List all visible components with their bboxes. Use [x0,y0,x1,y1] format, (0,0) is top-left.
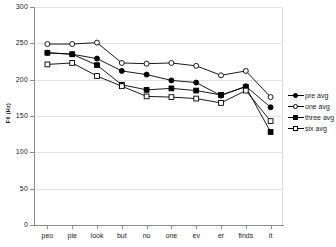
legend-label: pre avg [304,92,328,100]
data-point-marker [268,105,273,110]
data-point-marker [95,63,100,68]
data-point-marker [194,80,199,85]
data-point-marker [169,78,174,83]
series-one-avg [45,40,273,100]
series-line [47,63,270,121]
data-point-marker [95,74,100,79]
data-point-marker [194,88,199,93]
series-layer [0,0,336,247]
series-pre-avg [45,50,273,110]
series-line [47,53,270,108]
chart-legend: pre avgone avgthree avgsix avg [288,90,336,134]
data-point-marker [194,63,199,68]
data-point-marker [70,61,75,66]
legend-item-pre-avg[interactable]: pre avg [288,90,336,101]
data-point-marker [219,101,224,106]
legend-marker-icon [288,90,304,101]
data-point-marker [268,130,273,135]
data-point-marker [169,60,174,65]
data-point-marker [70,52,75,57]
data-point-marker [268,95,273,100]
legend-item-three-avg[interactable]: three avg [288,112,336,123]
data-point-marker [45,62,50,67]
data-point-marker [144,61,149,66]
data-point-marker [243,88,248,93]
data-point-marker [144,72,149,77]
data-point-marker [45,50,50,55]
data-point-marker [95,40,100,45]
data-point-marker [45,42,50,47]
legend-label: three avg [304,114,334,122]
data-point-marker [219,73,224,78]
series-six-avg [45,61,273,124]
data-point-marker [144,87,149,92]
legend-marker-icon [288,112,304,123]
data-point-marker [144,94,149,99]
f0-line-chart: 050100150200250300 peoplelookbutnooneeve… [0,0,336,247]
legend-item-six-avg[interactable]: six avg [288,123,336,134]
data-point-marker [243,68,248,73]
legend-marker-icon [288,123,304,134]
data-point-marker [70,42,75,47]
data-point-marker [169,95,174,100]
data-point-marker [95,56,100,61]
series-line [47,53,270,132]
data-point-marker [119,84,124,89]
legend-label: one avg [304,103,330,111]
data-point-marker [194,96,199,101]
data-point-marker [119,68,124,73]
data-point-marker [119,60,124,65]
data-point-marker [169,86,174,91]
data-point-marker [219,93,224,98]
legend-marker-icon [288,101,304,112]
legend-item-one-avg[interactable]: one avg [288,101,336,112]
data-point-marker [268,119,273,124]
legend-label: six avg [304,125,327,133]
